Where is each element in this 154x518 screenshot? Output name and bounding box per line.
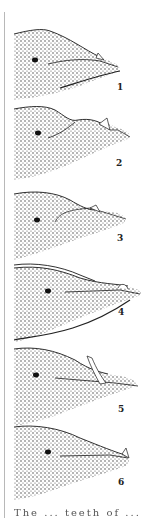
panel-label-5: 5 (118, 404, 124, 414)
figure-caption-fragment: The ... teeth of ... (14, 507, 154, 518)
eye-2 (35, 131, 41, 136)
whale-head-1 (14, 30, 120, 100)
panel-label-6: 6 (118, 477, 124, 487)
eye-6 (45, 450, 51, 455)
eye-5 (33, 373, 39, 378)
whale-head-6 (14, 426, 129, 500)
eye-1 (32, 58, 38, 63)
eye-4 (45, 289, 51, 294)
whale-head-2 (14, 107, 130, 181)
panel-label-1: 1 (117, 82, 123, 92)
panel-label-2: 2 (116, 158, 122, 168)
eye-3 (34, 218, 40, 223)
panel-label-4: 4 (118, 307, 124, 317)
panel-label-3: 3 (117, 233, 123, 243)
whale-head-4 (14, 267, 141, 342)
whale-head-5 (14, 348, 138, 426)
illustration-plate (0, 0, 154, 518)
